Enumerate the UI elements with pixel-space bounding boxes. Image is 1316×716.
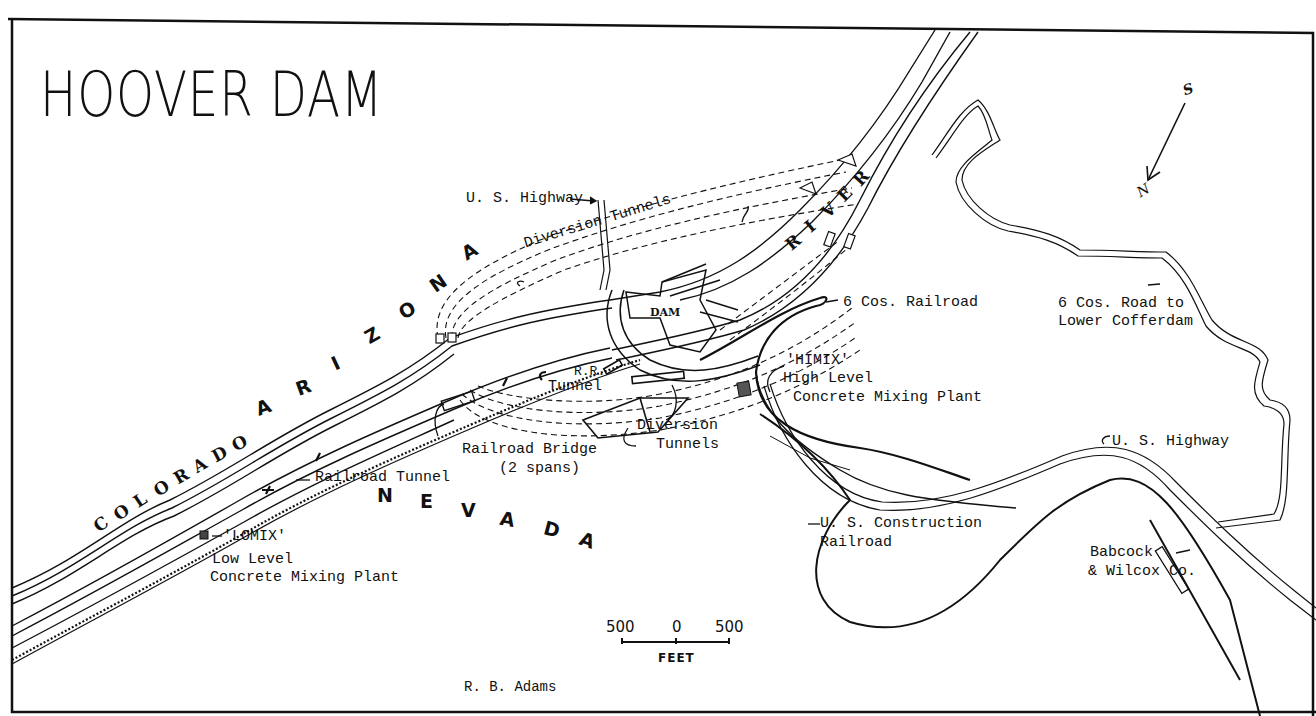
label-us-construction-railroad-line2: Railroad xyxy=(820,534,892,552)
scale-bar xyxy=(622,638,729,644)
himix-plant xyxy=(737,381,751,397)
map-credit: R. B. Adams xyxy=(464,678,556,696)
label-six-cos-road-line1: 6 Cos. Road to xyxy=(1058,295,1184,313)
babcock-rail xyxy=(1150,520,1240,680)
railroad-tracks xyxy=(12,360,640,664)
label-himix-concrete-plant: Concrete Mixing Plant xyxy=(793,389,982,407)
label-himix: 'HIMIX' xyxy=(786,352,849,370)
scale-center-label: 0 xyxy=(672,618,682,636)
leader-arrows xyxy=(212,197,1190,553)
label-us-highway-right: U. S. Highway xyxy=(1112,433,1229,451)
label-railroad-tunnel: Railroad Tunnel xyxy=(315,469,450,487)
label-himix-high-level: High Level xyxy=(783,370,873,388)
compass-arrow xyxy=(1147,103,1185,180)
label-babcock-wilcox: & Wilcox Co. xyxy=(1088,563,1196,581)
dam-structure xyxy=(607,264,760,381)
label-railroad-bridge-spans: (2 spans) xyxy=(499,460,580,478)
label-six-cos-railroad: 6 Cos. Railroad xyxy=(843,294,978,312)
map-title: HOOVER DAM xyxy=(40,58,383,131)
label-us-highway-top: U. S. Highway xyxy=(466,190,583,208)
label-babcock: Babcock xyxy=(1090,544,1153,562)
label-diversion-tunnels-bottom-line2: Tunnels xyxy=(656,436,719,454)
label-six-cos-road-line2: Lower Cofferdam xyxy=(1058,313,1193,331)
scale-right-label: 500 xyxy=(715,618,744,636)
dam-label: DAM xyxy=(650,306,680,319)
label-rr-tunnel-line2: Tunnel xyxy=(548,378,602,396)
label-lomix: 'LOMIX' xyxy=(223,528,286,546)
lomix-plant xyxy=(200,531,208,539)
label-diversion-tunnels-bottom: Diversion xyxy=(637,417,718,435)
label-lomix-low-level: Low Level xyxy=(212,551,293,569)
label-rr-tunnel-line1: R.R. xyxy=(574,365,605,379)
label-railroad-bridge: Railroad Bridge xyxy=(462,441,597,459)
scale-left-label: 500 xyxy=(606,618,635,636)
label-lomix-concrete-plant: Concrete Mixing Plant xyxy=(210,569,399,587)
scale-unit-label: FEET xyxy=(658,651,695,665)
label-us-construction-railroad: U. S. Construction xyxy=(820,515,982,533)
